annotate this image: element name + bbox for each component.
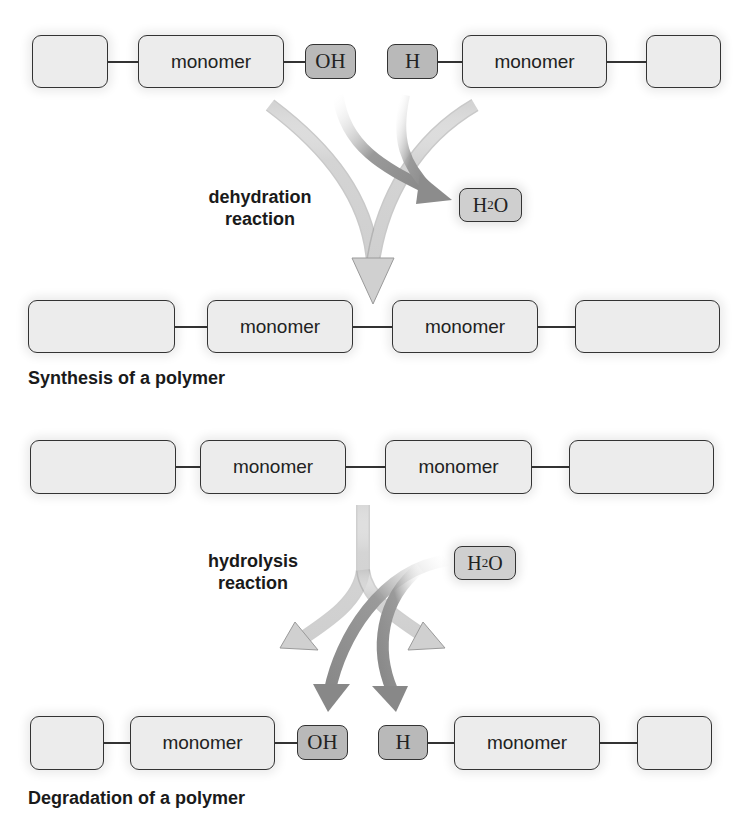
water-h: H bbox=[473, 194, 487, 217]
hydrogen-group: H bbox=[378, 725, 428, 760]
hydroxyl-group: OH bbox=[297, 725, 348, 760]
bond-line bbox=[104, 742, 130, 744]
bond-line bbox=[275, 742, 297, 744]
polymer-chain-box bbox=[575, 300, 720, 353]
bond-line bbox=[428, 742, 454, 744]
polymer-chain-box bbox=[30, 440, 176, 494]
monomer-label: monomer bbox=[487, 732, 567, 754]
monomer-box: monomer bbox=[138, 35, 284, 88]
monomer-box: monomer bbox=[454, 716, 600, 770]
bond-line bbox=[600, 742, 637, 744]
monomer-label: monomer bbox=[418, 456, 498, 478]
bond-line bbox=[284, 61, 305, 63]
reaction-label-line1: dehydration bbox=[186, 186, 334, 208]
hydrogen-group: H bbox=[387, 44, 438, 79]
monomer-box: monomer bbox=[385, 440, 532, 494]
group-label: OH bbox=[307, 730, 337, 755]
reaction-arrows bbox=[0, 0, 748, 828]
water-h: H bbox=[467, 552, 481, 575]
polymer-chain-box bbox=[637, 716, 712, 770]
bond-line bbox=[175, 326, 207, 328]
water-o: O bbox=[488, 552, 502, 575]
polymer-chain-box bbox=[646, 35, 721, 88]
monomer-box: monomer bbox=[392, 300, 538, 353]
bond-line bbox=[176, 466, 200, 468]
water-o: O bbox=[494, 194, 508, 217]
reaction-label-line1: hydrolysis bbox=[188, 550, 318, 572]
degradation-caption: Degradation of a polymer bbox=[28, 788, 245, 809]
monomer-box: monomer bbox=[200, 440, 346, 494]
bond-line bbox=[438, 61, 462, 63]
monomer-box: monomer bbox=[130, 716, 275, 770]
synthesis-caption: Synthesis of a polymer bbox=[28, 368, 225, 389]
reaction-label-line2: reaction bbox=[186, 208, 334, 230]
polymer-chain-box bbox=[569, 440, 714, 494]
hydrolysis-reaction-label: hydrolysis reaction bbox=[188, 550, 318, 594]
polymer-chain-box bbox=[30, 716, 104, 770]
water-molecule: H2O bbox=[454, 546, 516, 580]
dehydration-reaction-label: dehydration reaction bbox=[186, 186, 334, 230]
polymer-chain-box bbox=[28, 300, 175, 353]
bond-line bbox=[538, 326, 575, 328]
reaction-label-line2: reaction bbox=[188, 572, 318, 594]
monomer-box: monomer bbox=[207, 300, 353, 353]
bond-line bbox=[353, 326, 392, 328]
group-label: H bbox=[395, 730, 410, 755]
bond-line bbox=[108, 61, 138, 63]
monomer-label: monomer bbox=[171, 51, 251, 73]
monomer-box: monomer bbox=[462, 35, 607, 88]
monomer-label: monomer bbox=[240, 316, 320, 338]
group-label: H bbox=[405, 49, 420, 74]
bond-line bbox=[346, 466, 385, 468]
bond-line bbox=[607, 61, 646, 63]
bond-line bbox=[532, 466, 569, 468]
hydroxyl-group: OH bbox=[305, 44, 356, 79]
monomer-label: monomer bbox=[162, 732, 242, 754]
monomer-label: monomer bbox=[494, 51, 574, 73]
group-label: OH bbox=[315, 49, 345, 74]
polymer-chain-box bbox=[32, 35, 108, 88]
monomer-label: monomer bbox=[233, 456, 313, 478]
water-molecule: H2O bbox=[459, 188, 522, 222]
monomer-label: monomer bbox=[425, 316, 505, 338]
